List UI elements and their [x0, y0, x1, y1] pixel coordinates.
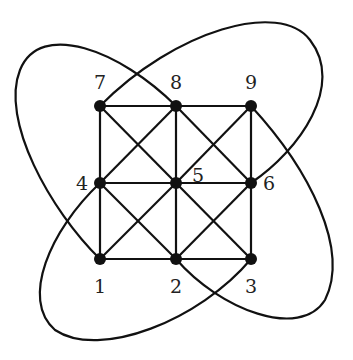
node-label-7: 7 — [94, 71, 106, 93]
node-label-8: 8 — [170, 71, 182, 93]
node-3 — [245, 253, 257, 265]
node-label-2: 2 — [170, 275, 182, 297]
node-9 — [245, 100, 257, 112]
node-5 — [170, 177, 182, 189]
graph-diagram: 123456789 — [0, 0, 353, 360]
node-label-4: 4 — [76, 172, 88, 194]
node-8 — [170, 100, 182, 112]
node-6 — [245, 177, 257, 189]
node-label-5: 5 — [192, 164, 204, 186]
node-2 — [170, 253, 182, 265]
node-1 — [94, 253, 106, 265]
node-label-3: 3 — [245, 275, 257, 297]
node-7 — [94, 100, 106, 112]
loop-4-3 — [40, 183, 251, 340]
node-label-1: 1 — [94, 275, 106, 297]
node-label-9: 9 — [245, 71, 257, 93]
loop-7-6 — [100, 22, 322, 183]
node-label-6: 6 — [263, 172, 275, 194]
node-4 — [94, 177, 106, 189]
